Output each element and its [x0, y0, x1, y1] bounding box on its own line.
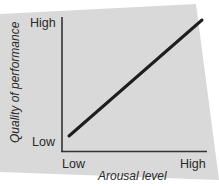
x-axis-label: Arousal level	[97, 169, 167, 183]
chart-canvas: High Low Low High Arousal level Quality …	[0, 0, 219, 186]
y-axis-label: Quality of performance	[8, 21, 22, 143]
y-tick-low: Low	[32, 135, 56, 149]
x-tick-high: High	[180, 157, 206, 171]
y-tick-high: High	[30, 16, 56, 30]
background-panel	[0, 4, 219, 180]
x-tick-low: Low	[62, 157, 86, 171]
